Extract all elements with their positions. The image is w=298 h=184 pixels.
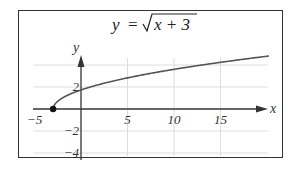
y-axis-arrow-icon	[78, 55, 85, 67]
endpoint-dot	[50, 106, 56, 112]
x-tick-label: 5	[124, 112, 131, 127]
chart-title: y = x + 3	[110, 14, 197, 34]
plot-area: −5510152−2−4 y x y = x + 3	[0, 0, 298, 184]
title-radicand: x + 3	[153, 15, 190, 34]
x-axis-label: x	[269, 101, 277, 116]
y-axis-label: y	[71, 40, 80, 55]
x-tick-label: 10	[168, 112, 182, 127]
data-curve	[53, 56, 269, 109]
x-axis-arrow-icon	[256, 106, 268, 113]
point-markers	[50, 106, 56, 112]
title-equals: =	[128, 15, 138, 34]
y-tick-label: 2	[73, 79, 80, 94]
y-tick-label: −4	[64, 145, 80, 160]
y-tick-label: −2	[64, 123, 80, 138]
title-lhs: y	[110, 15, 120, 34]
x-tick-label: 15	[214, 112, 228, 127]
x-tick-label: −5	[27, 112, 43, 127]
